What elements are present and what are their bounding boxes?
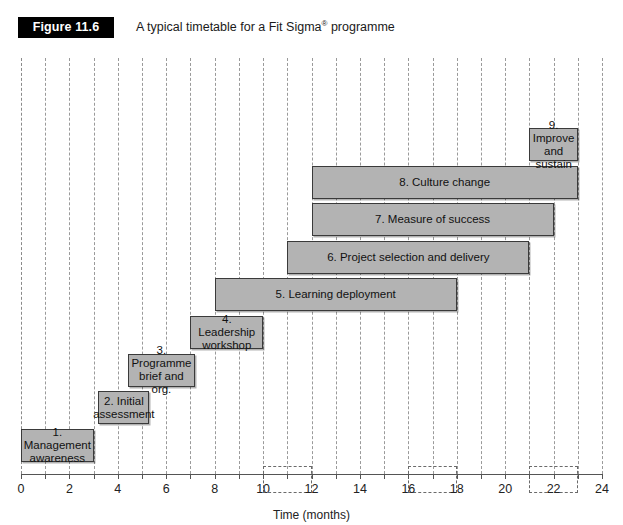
tick-label-2: 2	[66, 482, 73, 496]
tick-label-24: 24	[595, 482, 609, 496]
gantt-bar-label: 8. Culture change	[399, 176, 490, 189]
figure-caption-text-tail: programme	[327, 20, 394, 34]
tick-9	[239, 474, 240, 479]
gantt-bar-label: 4. Leadership workshop	[194, 313, 259, 352]
tick-label-4: 4	[114, 482, 121, 496]
gridline-month-23	[578, 58, 579, 474]
figure-header: Figure 11.6 A typical timetable for a Fi…	[0, 0, 623, 50]
gantt-bar-label: 7. Measure of success	[375, 213, 490, 226]
gridline-month-6	[166, 58, 167, 474]
tick-label-12: 12	[305, 482, 319, 496]
tick-6	[166, 474, 167, 479]
gridline-month-24	[602, 58, 603, 474]
gridline-month-10	[263, 58, 264, 474]
tick-label-16: 16	[401, 482, 415, 496]
figure-caption-text: A typical timetable for a Fit Sigma	[136, 20, 322, 34]
tick-21	[529, 474, 530, 479]
gantt-bar-label: 3. Programme brief and org.	[131, 344, 191, 396]
gantt-bar-task-3: 3. Programme brief and org.	[128, 354, 196, 387]
tick-label-0: 0	[18, 482, 25, 496]
gridline-month-2	[69, 58, 70, 474]
tick-12	[312, 474, 313, 479]
tick-13	[336, 474, 337, 479]
figure-caption: A typical timetable for a Fit Sigma® pro…	[136, 18, 395, 36]
tick-4	[118, 474, 119, 479]
gantt-bar-label: 1. Management awareness	[24, 426, 91, 465]
tick-label-18: 18	[450, 482, 464, 496]
tick-10	[263, 474, 264, 479]
tick-24	[602, 474, 603, 479]
tick-17	[433, 474, 434, 479]
gridline-month-0	[21, 58, 22, 474]
tick-0	[21, 474, 22, 479]
tick-label-10: 10	[256, 482, 270, 496]
tick-2	[69, 474, 70, 479]
gantt-bar-task-5: 5. Learning deployment	[215, 278, 457, 311]
tick-label-20: 20	[498, 482, 512, 496]
gantt-bar-task-4: 4. Leadership workshop	[190, 316, 263, 349]
tick-11	[287, 474, 288, 479]
tick-1	[45, 474, 46, 479]
gantt-bar-task-8: 8. Culture change	[312, 166, 578, 199]
x-axis-title: Time (months)	[0, 508, 623, 522]
tick-label-6: 6	[163, 482, 170, 496]
gantt-bar-task-2: 2. Initial assessment	[98, 391, 149, 424]
tick-20	[505, 474, 506, 479]
tick-22	[554, 474, 555, 479]
gridline-month-8	[215, 58, 216, 474]
gantt-bar-label: 5. Learning deployment	[276, 288, 396, 301]
tick-5	[142, 474, 143, 479]
tick-18	[457, 474, 458, 479]
gantt-bar-label: 2. Initial assessment	[93, 395, 154, 421]
tick-label-8: 8	[211, 482, 218, 496]
gantt-bar-task-1: 1. Management awareness	[21, 429, 94, 462]
gantt-bar-task-9: 9. Improve and sustain	[529, 128, 577, 161]
gantt-bar-label: 9. Improve and sustain	[533, 119, 575, 171]
figure-number-badge: Figure 11.6	[18, 17, 114, 38]
tick-16	[408, 474, 409, 479]
gridline-month-1	[45, 58, 46, 474]
gantt-bar-task-6: 6. Project selection and delivery	[287, 241, 529, 274]
tick-14	[360, 474, 361, 479]
tick-3	[94, 474, 95, 479]
gridline-month-9	[239, 58, 240, 474]
gantt-chart-plot-area: 1. Management awareness2. Initial assess…	[0, 50, 623, 525]
tick-23	[578, 474, 579, 479]
tick-15	[384, 474, 385, 479]
tick-19	[481, 474, 482, 479]
gridline-month-7	[190, 58, 191, 474]
tick-7	[190, 474, 191, 479]
tick-label-14: 14	[353, 482, 367, 496]
tick-8	[215, 474, 216, 479]
gantt-bar-task-7: 7. Measure of success	[312, 203, 554, 236]
gridline-month-21	[529, 58, 530, 474]
tick-label-22: 22	[547, 482, 561, 496]
gantt-bar-label: 6. Project selection and delivery	[327, 251, 489, 264]
